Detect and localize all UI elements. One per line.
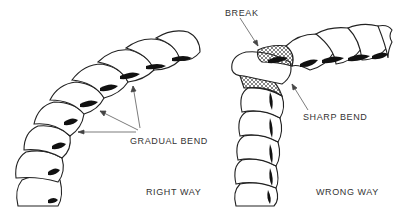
gradual-bend-label: GRADUAL BEND: [130, 136, 208, 146]
break-arrow: [240, 18, 258, 46]
rope-gradual-bend: [16, 31, 200, 206]
wrong-way-caption: WRONG WAY: [316, 187, 379, 197]
sharp-bend-label: SHARP BEND: [303, 112, 367, 122]
sharp-bend-arrow: [292, 84, 308, 110]
right-way-caption: RIGHT WAY: [146, 187, 201, 197]
break-label: BREAK: [225, 8, 259, 18]
